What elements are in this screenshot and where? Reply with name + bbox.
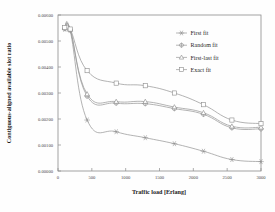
y-tick-label: 0.00100 bbox=[38, 143, 54, 148]
legend-label: Random fit bbox=[191, 42, 218, 48]
x-tick-label: 1000 bbox=[121, 175, 131, 180]
y-tick-label: 0.00000 bbox=[38, 169, 54, 174]
y-axis-title: Contiguous-aligned available slot ratio bbox=[6, 43, 12, 143]
legend-label: Exact fit bbox=[191, 67, 212, 73]
legend-item: Exact fit bbox=[176, 67, 211, 73]
chart-background bbox=[0, 0, 275, 212]
y-tick-label: 0.00300 bbox=[38, 91, 54, 96]
x-tick-label: 2000 bbox=[189, 175, 199, 180]
legend-label: First-last fit bbox=[191, 55, 219, 61]
y-tick-label: 0.00600 bbox=[38, 13, 54, 18]
y-tick-label: 0.00200 bbox=[38, 117, 54, 122]
x-tick-label: 2500 bbox=[223, 175, 233, 180]
y-tick-label: 0.00400 bbox=[38, 65, 54, 70]
x-axis-title: Traffic load [Erlang] bbox=[132, 189, 186, 195]
x-tick-label: 500 bbox=[88, 175, 96, 180]
line-chart: 0.000000.001000.002000.003000.004000.005… bbox=[0, 0, 275, 212]
legend-label: First fit bbox=[191, 30, 209, 36]
x-tick-label: 1500 bbox=[155, 175, 165, 180]
chart-figure: 0.000000.001000.002000.003000.004000.005… bbox=[0, 0, 275, 212]
x-tick-label: 3000 bbox=[256, 175, 266, 180]
y-tick-label: 0.00500 bbox=[38, 39, 54, 44]
